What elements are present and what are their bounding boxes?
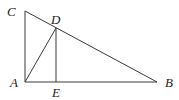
label-E: E bbox=[51, 85, 60, 100]
label-A: A bbox=[9, 75, 18, 90]
label-B: B bbox=[165, 75, 173, 90]
label-D: D bbox=[50, 12, 61, 27]
segment-AD bbox=[25, 28, 56, 82]
segment-CB bbox=[25, 11, 157, 82]
label-C: C bbox=[7, 4, 16, 19]
geometry-diagram: C D A E B bbox=[0, 0, 179, 100]
